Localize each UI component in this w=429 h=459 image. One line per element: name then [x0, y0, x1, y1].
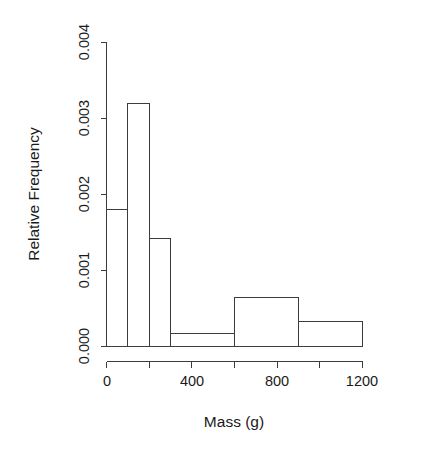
- relative-frequency-histogram: 0.004 0.003 0.002 0.001 0.000 Relative F…: [0, 0, 429, 459]
- x-tick-label-1200: 1200: [346, 373, 378, 389]
- y-tick-label-0.002: 0.002: [76, 176, 92, 212]
- y-axis-title: Relative Frequency: [25, 127, 42, 261]
- y-tick-label-0.001: 0.001: [76, 252, 92, 288]
- histogram-bar: [299, 321, 363, 346]
- histogram-bar: [235, 297, 299, 346]
- histogram-bars-group: [107, 103, 363, 346]
- x-axis-group: 0 400 800 1200 Mass (g): [103, 362, 378, 431]
- y-tick-label-0.000: 0.000: [76, 328, 92, 364]
- y-tick-label-0.003: 0.003: [76, 100, 92, 136]
- x-tick-label-800: 800: [265, 373, 289, 389]
- x-tick-label-400: 400: [180, 373, 204, 389]
- y-tick-label-0.004: 0.004: [76, 24, 92, 60]
- x-tick-label-0: 0: [103, 373, 111, 389]
- histogram-bar: [149, 239, 170, 347]
- histogram-plot-root: 0.004 0.003 0.002 0.001 0.000 Relative F…: [0, 0, 429, 459]
- histogram-bar: [171, 334, 235, 347]
- y-axis-group: 0.004 0.003 0.002 0.001 0.000 Relative F…: [25, 24, 107, 364]
- histogram-bar: [107, 210, 128, 347]
- histogram-bar: [128, 103, 149, 346]
- x-axis-title: Mass (g): [204, 413, 264, 430]
